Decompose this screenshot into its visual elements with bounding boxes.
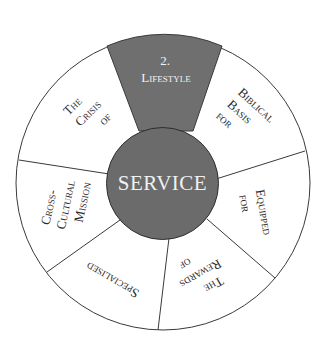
center-label: SERVICE xyxy=(118,171,207,195)
segment-label-line: for xyxy=(236,193,254,213)
segment-label: Lifestyle xyxy=(141,70,191,85)
service-wheel-diagram: SERVICE 2. Lifestyle Biblical Basis for … xyxy=(0,0,328,356)
segment-number: 2. xyxy=(160,53,170,68)
